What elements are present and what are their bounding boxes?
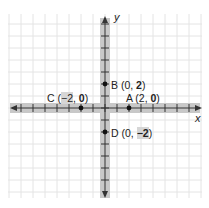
point-a [127, 106, 132, 111]
point-label-d: D (0, −2) [111, 127, 152, 139]
x-axis-label: x [195, 112, 201, 124]
point-b [103, 82, 108, 87]
point-label-c: C (−2, 0) [47, 92, 88, 104]
point-d [103, 130, 108, 135]
point-c [79, 106, 84, 111]
y-axis-label: y [114, 11, 120, 23]
coordinate-plane [0, 0, 209, 208]
point-label-a: A (2, 0) [126, 92, 160, 104]
axes [10, 16, 202, 198]
point-label-b: B (0, 2) [111, 79, 145, 91]
